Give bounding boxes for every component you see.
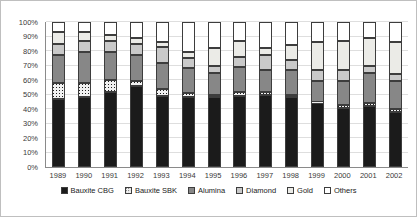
y-axis: 0%10%20%30%40%50%60%70%80%90%100%: [1, 22, 41, 167]
bar-segment: [389, 42, 402, 74]
bar-segment: [285, 70, 298, 95]
x-axis-label: 2001: [355, 171, 381, 180]
bar-segment: [285, 45, 298, 60]
y-axis-label: 100%: [19, 18, 38, 26]
bar-1992: [130, 22, 143, 167]
bar-segment: [363, 38, 376, 66]
legend-label: Bauxite CBG: [71, 186, 114, 195]
bar-segment: [311, 70, 324, 82]
bar-1990: [78, 22, 91, 167]
bar-segment: [337, 22, 350, 41]
bar-segment: [182, 58, 195, 68]
bar-segment: [259, 70, 272, 92]
bar-segment: [104, 41, 117, 53]
bar-segment: [130, 86, 143, 167]
bar-segment: [182, 22, 195, 52]
bar-segment: [130, 44, 143, 56]
legend-marker-icon: [188, 187, 195, 194]
bar-slot: [356, 22, 382, 167]
bar-slot: [382, 22, 408, 167]
y-axis-label: 60%: [23, 76, 38, 84]
bar-segment: [52, 44, 65, 56]
y-axis-label: 0%: [27, 163, 38, 171]
bar-segment: [311, 81, 324, 101]
legend-item: Diamond: [236, 186, 276, 195]
bar-segment: [233, 96, 246, 167]
bar-segment: [337, 81, 350, 104]
bar-segment: [52, 55, 65, 83]
legend-marker-icon: [287, 187, 294, 194]
bar-segment: [182, 68, 195, 93]
y-axis-label: 30%: [23, 120, 38, 128]
x-axis-label: 1989: [45, 171, 71, 180]
bar-slot: [175, 22, 201, 167]
y-axis-label: 90%: [23, 33, 38, 41]
bar-1994: [182, 22, 195, 167]
x-axis-label: 2002: [381, 171, 407, 180]
bar-segment: [78, 41, 91, 53]
legend-marker-icon: [61, 187, 68, 194]
bar-1995: [208, 22, 221, 167]
bar-segment: [311, 42, 324, 70]
x-axis-label: 1991: [97, 171, 123, 180]
bar-segment: [208, 73, 221, 95]
plot-area: [45, 22, 408, 168]
legend: Bauxite CBGBauxite SBKAluminaDiamondGold…: [1, 186, 416, 195]
bar-segment: [52, 22, 65, 32]
bar-1993: [156, 22, 169, 167]
y-axis-label: 40%: [23, 105, 38, 113]
bar-segment: [130, 22, 143, 38]
x-axis-label: 1992: [123, 171, 149, 180]
x-axis: 1989199019911992199319941995199619971998…: [45, 171, 407, 180]
bar-segment: [78, 22, 91, 32]
bar-segment: [104, 22, 117, 35]
legend-label: Diamond: [246, 186, 276, 195]
bar-segment: [285, 97, 298, 167]
bar-segment: [156, 63, 169, 89]
bar-segment: [363, 22, 376, 38]
y-axis-label: 20%: [23, 134, 38, 142]
bar-segment: [337, 108, 350, 167]
bar-segment: [233, 67, 246, 92]
legend-item: Alumina: [188, 186, 225, 195]
x-axis-label: 1995: [200, 171, 226, 180]
bar-segment: [78, 97, 91, 167]
bar-segment: [337, 70, 350, 82]
bar-segment: [182, 97, 195, 167]
bar-1998: [285, 22, 298, 167]
bar-segment: [259, 55, 272, 70]
bar-2000: [337, 22, 350, 167]
bar-segment: [389, 81, 402, 109]
bar-slot: [330, 22, 356, 167]
bar-1989: [52, 22, 65, 167]
bar-segment: [52, 83, 65, 99]
bar-1991: [104, 22, 117, 167]
bar-segment: [156, 89, 169, 96]
y-axis-label: 80%: [23, 47, 38, 55]
y-axis-label: 10%: [23, 149, 38, 157]
legend-marker-icon: [125, 187, 132, 194]
bar-slot: [253, 22, 279, 167]
x-axis-label: 1998: [278, 171, 304, 180]
legend-item: Others: [324, 186, 357, 195]
bar-slot: [72, 22, 98, 167]
bar-segment: [363, 73, 376, 103]
bar-segment: [259, 48, 272, 55]
x-axis-label: 1990: [71, 171, 97, 180]
bar-segment: [78, 83, 91, 98]
legend-marker-icon: [236, 187, 243, 194]
bars-layer: [46, 22, 408, 167]
legend-item: Gold: [287, 186, 313, 195]
x-axis-label: 1994: [174, 171, 200, 180]
x-axis-label: 1993: [148, 171, 174, 180]
bar-segment: [311, 103, 324, 167]
bar-segment: [389, 22, 402, 42]
legend-label: Gold: [297, 186, 313, 195]
chart-container: 0%10%20%30%40%50%60%70%80%90%100% 198919…: [0, 0, 417, 217]
bar-segment: [285, 60, 298, 70]
x-axis-label: 1997: [252, 171, 278, 180]
y-axis-label: 70%: [23, 62, 38, 70]
bar-segment: [104, 92, 117, 167]
legend-label: Alumina: [198, 186, 225, 195]
bar-segment: [104, 52, 117, 80]
